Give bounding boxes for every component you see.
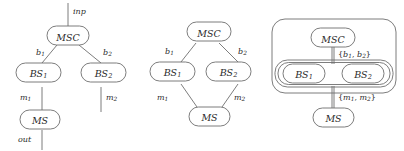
node-msc-label: MSC xyxy=(196,27,221,38)
diagram-canvas: MSC BS1 BS2 MS inp b1 b2 xyxy=(0,0,404,151)
edge-msc-to-bs2 xyxy=(79,45,101,63)
node-ms-label: MS xyxy=(200,112,218,123)
edge-label-out: out xyxy=(18,135,32,144)
node-ms-label: MS xyxy=(324,113,342,124)
edge-label-b1: b1 xyxy=(36,48,45,58)
edge-label-b2: b2 xyxy=(103,48,112,58)
set-label-b: {b1, b2} xyxy=(338,50,371,60)
set-label-m: {m1, m2} xyxy=(338,93,376,103)
edge-label-b2: b2 xyxy=(238,47,247,57)
edge-label-m1: m1 xyxy=(157,93,168,103)
panel-left: MSC BS1 BS2 MS inp b1 b2 xyxy=(16,3,126,150)
edge-label-inp: inp xyxy=(73,7,86,16)
panel-middle: MSC BS1 BS2 MS b1 b2 m1 xyxy=(150,22,251,126)
edge-bs1-to-ms xyxy=(181,84,197,107)
node-msc-label: MSC xyxy=(320,33,345,44)
node-msc-label: MSC xyxy=(55,31,80,42)
edge-label-m2: m2 xyxy=(106,93,118,103)
edge-msc-to-bs1 xyxy=(181,43,196,62)
node-ms-label: MS xyxy=(31,115,49,126)
panel-right: MSC BS1 BS2 MS {b1, b2} {m1, m2} xyxy=(272,19,396,127)
edge-msc-to-bs2 xyxy=(219,43,238,62)
edge-label-b1: b1 xyxy=(165,47,174,57)
edge-label-m1: m1 xyxy=(20,93,31,103)
edge-label-m2: m2 xyxy=(234,93,246,103)
figure-triptych-network-diagrams: MSC BS1 BS2 MS inp b1 b2 xyxy=(0,0,404,151)
